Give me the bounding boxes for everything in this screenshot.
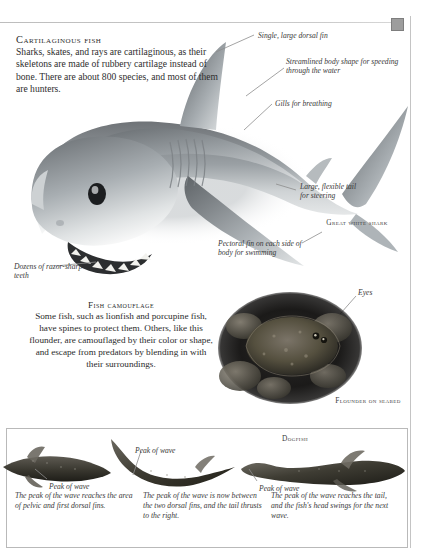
stage-1-description: The peak of the wave reaches the area of… bbox=[15, 491, 135, 511]
callout-eyes: Eyes bbox=[358, 288, 372, 297]
callout-tail-label: Large, flexible tail for steering bbox=[300, 182, 358, 200]
callout-dorsal-fin: Single, large dorsal fin bbox=[258, 31, 328, 40]
peak-of-wave-label-2-group: Peak of wave bbox=[135, 439, 175, 457]
peak-of-wave-label-1: Peak of wave bbox=[49, 482, 89, 491]
camouflage-body: Some fish, such as lionfish and porcupin… bbox=[28, 311, 214, 371]
swimming-sequence-panel: Dogfish bbox=[6, 428, 408, 548]
callout-dorsal-fin-label: Single, large dorsal fin bbox=[258, 31, 328, 40]
page-canvas: Cartilaginous fish Sharks, skates, and r… bbox=[0, 0, 427, 548]
intro-body: Sharks, skates, and rays are cartilagino… bbox=[16, 46, 226, 96]
shark-caption: Great white shark bbox=[318, 218, 396, 227]
callout-gills-label: Gills for breathing bbox=[275, 99, 332, 108]
callout-streamlined-body-label: Streamlined body shape for speeding thro… bbox=[286, 57, 406, 75]
callout-pectoral-fin-label: Pectoral fin on each side of body for sw… bbox=[218, 239, 302, 257]
intro-heading: Cartilaginous fish bbox=[16, 34, 226, 45]
flounder-caption: Flounder on seabed bbox=[330, 396, 406, 405]
flounder-on-seabed-illustration bbox=[218, 288, 368, 410]
stage-2-description: The peak of the wave is now between the … bbox=[143, 491, 268, 520]
callout-gills: Gills for breathing bbox=[275, 99, 332, 108]
callout-pectoral-fin: Pectoral fin on each side of body for sw… bbox=[218, 239, 302, 257]
callout-teeth-label: Dozens of razor-sharp teeth bbox=[14, 262, 94, 280]
intro-block: Cartilaginous fish Sharks, skates, and r… bbox=[16, 34, 226, 96]
stage-3-description: The peak of the wave reaches the tail, a… bbox=[271, 491, 399, 520]
dogfish-caption: Dogfish bbox=[245, 434, 345, 443]
callout-teeth: Dozens of razor-sharp teeth bbox=[14, 262, 94, 280]
camouflage-heading: Fish camouflage bbox=[28, 300, 214, 310]
callout-streamlined-body: Streamlined body shape for speeding thro… bbox=[286, 57, 406, 75]
camouflage-block: Fish camouflage Some fish, such as lionf… bbox=[28, 300, 214, 371]
callout-tail: Large, flexible tail for steering bbox=[300, 182, 358, 200]
callout-eyes-label: Eyes bbox=[358, 288, 372, 297]
peak-of-wave-label-2: Peak of wave bbox=[135, 446, 175, 455]
right-vertical-rule bbox=[410, 16, 411, 548]
